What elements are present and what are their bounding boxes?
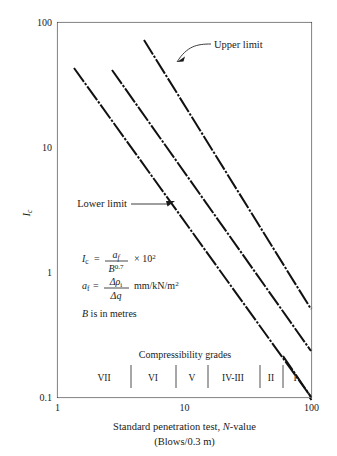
formula-af-denominator: Δq (110, 290, 122, 301)
formula-ic-den-sup: 0.7 (115, 263, 124, 271)
formula-ic-eq: = (94, 253, 100, 264)
formula-ic-tail-sup: 2 (152, 253, 156, 261)
x-axis-title-line2: (Blows/0.3 m) (154, 436, 215, 448)
lower-limit-label: Lower limit (77, 198, 127, 209)
chart-canvas: 100 10 1 0.1 1 10 100 Ic Standard penetr… (0, 0, 337, 456)
y-tick-label-10: 10 (42, 142, 52, 153)
upper-limit-label: Upper limit (214, 39, 263, 50)
grade-label-II: II (268, 373, 274, 383)
formula-af-units: mm/kN/m2 (134, 280, 179, 291)
x-axis-title-main: Standard penetration test, (113, 421, 223, 432)
b-note: B is in metres (82, 308, 137, 319)
plot-clear-overlay (58, 23, 312, 398)
x-tick-label-10: 10 (180, 402, 190, 413)
x-axis-title-line1: Standard penetration test, N-value (113, 421, 256, 432)
y-axis-title-sub: c (25, 209, 34, 213)
y-tick-label-0.1: 0.1 (40, 392, 53, 403)
formula-af-units-sup: 2 (175, 280, 179, 288)
formula-af-units-main: mm/kN/m (134, 280, 175, 291)
formula-af-den-q: q (116, 290, 121, 301)
formula-af-eq: = (93, 280, 99, 291)
x-axis-title-tail: -value (230, 421, 257, 432)
x-tick-label-1: 1 (55, 402, 60, 413)
figure-root: 100 10 1 0.1 1 10 100 Ic Standard penetr… (0, 0, 337, 456)
y-tick-label-100: 100 (37, 17, 52, 28)
y-tick-label-1: 1 (47, 267, 52, 278)
grade-label-VI: VI (148, 373, 158, 383)
grade-label-VII: VII (97, 373, 110, 383)
grade-label-V: V (189, 373, 196, 383)
svg-text:Ic: Ic (21, 209, 34, 218)
grade-label-IV-III: IV-III (222, 373, 244, 383)
b-note-rest: is in metres (88, 308, 137, 319)
formula-ic-tail-times: × 10 (134, 253, 152, 264)
y-axis-title: Ic (21, 209, 34, 218)
x-tick-label-100: 100 (304, 402, 319, 413)
compressibility-grades-title: Compressibility grades (139, 349, 232, 360)
